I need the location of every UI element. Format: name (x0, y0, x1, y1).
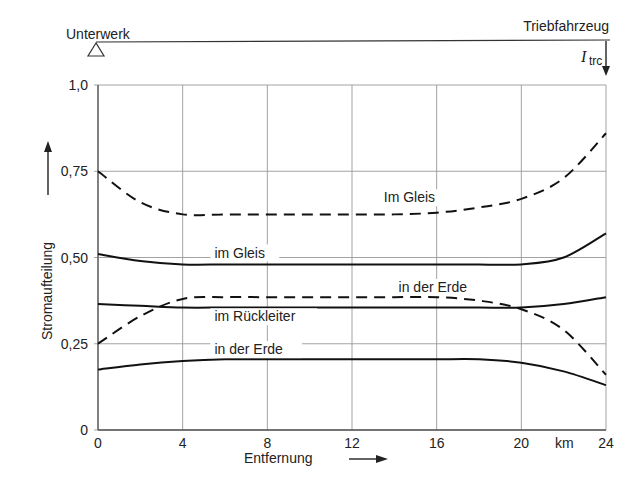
x-axis-unit: km (555, 435, 574, 451)
substation-label: Unterwerk (66, 26, 131, 42)
y-axis-label: Stromaufteilung (39, 242, 55, 340)
current-subscript: trc (589, 54, 602, 68)
current-arrow-icon (602, 41, 610, 76)
x-tick-label: 20 (514, 435, 530, 451)
curve-label: im Gleis (214, 245, 265, 261)
x-tick-label: 0 (94, 435, 102, 451)
x-tick-label: 12 (344, 435, 360, 451)
curve-label: im Rückleiter (214, 308, 295, 324)
substation-triangle-icon (88, 43, 104, 56)
x-tick-label: 16 (429, 435, 445, 451)
y-tick-label: 0,25 (61, 336, 88, 352)
vehicle-label: Triebfahrzeug (523, 18, 609, 34)
grid (94, 85, 606, 430)
y-tick-label: 1,0 (69, 77, 89, 93)
curve-label: in der Erde (399, 279, 468, 295)
curve-label: in der Erde (214, 341, 283, 357)
x-tick-label: 24 (598, 435, 614, 451)
catenary-line (96, 40, 610, 42)
y-tick-label: 0 (80, 422, 88, 438)
y-tick-label: 0,75 (61, 163, 88, 179)
current-symbol: I (580, 48, 587, 65)
curve-label: Im Gleis (384, 189, 435, 205)
current-distribution-chart: Unterwerk Triebfahrzeug I trc 0481216202… (0, 0, 643, 492)
feeder-diagram: Unterwerk Triebfahrzeug I trc (66, 18, 610, 76)
y-tick-label: 0,50 (61, 250, 88, 266)
x-tick-label: 4 (179, 435, 187, 451)
y-axis-title: Stromaufteilung (39, 141, 55, 340)
x-axis-label: Entfernung (244, 450, 313, 466)
x-tick-label: 8 (263, 435, 271, 451)
